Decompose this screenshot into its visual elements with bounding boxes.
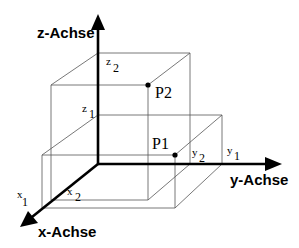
- tick-z1: z 1: [82, 102, 95, 121]
- svg-text:2: 2: [113, 61, 119, 75]
- svg-text:1: 1: [89, 107, 95, 121]
- y-axis-arrow-icon: [265, 157, 282, 171]
- tick-y2: y 2: [192, 146, 205, 165]
- point-p1-marker: [172, 152, 177, 157]
- p2-box-lines: [51, 53, 190, 200]
- tick-x1: x 1: [17, 188, 28, 209]
- svg-text:z: z: [82, 102, 87, 114]
- tick-z2: z 2: [106, 55, 119, 75]
- tick-y1: y 1: [227, 144, 240, 163]
- svg-text:y: y: [227, 144, 233, 156]
- x-axis: [20, 164, 98, 227]
- z-axis-label: z-Achse: [37, 24, 95, 41]
- point-p2-label: P2: [155, 84, 172, 101]
- point-p2-marker: [145, 82, 150, 87]
- coordinate-diagram: z-Achse y-Achse x-Achse P2 P1 z 2 z 1 y …: [0, 0, 299, 248]
- tick-x2: x 2: [67, 185, 81, 204]
- svg-text:2: 2: [199, 151, 205, 165]
- svg-text:y: y: [192, 146, 198, 158]
- x-axis-label: x-Achse: [38, 223, 96, 240]
- svg-text:2: 2: [75, 190, 81, 204]
- svg-text:1: 1: [234, 149, 240, 163]
- y-axis-label: y-Achse: [230, 171, 288, 188]
- svg-text:x: x: [67, 185, 73, 197]
- svg-text:1: 1: [22, 195, 28, 209]
- point-p1-label: P1: [152, 135, 169, 152]
- diagram-canvas: z-Achse y-Achse x-Achse P2 P1 z 2 z 1 y …: [0, 0, 299, 248]
- svg-text:z: z: [106, 55, 111, 67]
